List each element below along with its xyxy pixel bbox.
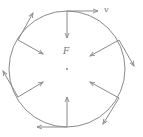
force-arrows [18, 11, 119, 127]
velocity-arrow-upper-left [18, 13, 33, 40]
force-arrow-upper-right [90, 40, 119, 56]
circular-motion-diagram: v F [0, 0, 143, 137]
force-arrow-lower-right [90, 82, 119, 98]
force-arrow-upper-left [18, 40, 43, 54]
velocity-arrow-lower-left [3, 71, 18, 97]
force-arrow-lower-left [18, 82, 43, 97]
center-dot [66, 68, 68, 70]
velocity-arrows [3, 11, 134, 127]
velocity-arrow-lower-right [103, 98, 119, 124]
force-label: F [62, 46, 70, 56]
velocity-label: v [104, 5, 109, 14]
velocity-arrow-upper-right [119, 40, 134, 66]
